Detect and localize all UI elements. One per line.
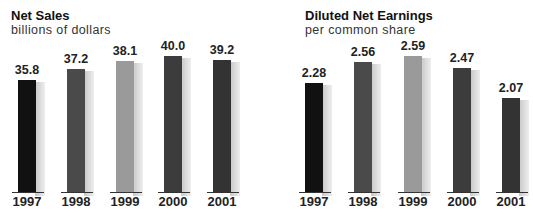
value-label: 2.07 <box>491 81 531 95</box>
chart-title: Diluted Net Earnings <box>305 8 433 23</box>
chart-subtitle: per common share <box>305 23 416 37</box>
baseline <box>299 192 331 193</box>
year-label: 1997 <box>292 194 336 209</box>
year-label: 1999 <box>391 194 435 209</box>
bar-shadow <box>519 100 529 196</box>
value-label: 2.56 <box>343 45 383 59</box>
baseline <box>398 192 430 193</box>
bar-1999 <box>404 56 422 192</box>
baseline <box>496 192 528 193</box>
bar-2000 <box>453 68 471 192</box>
value-label: 2.28 <box>294 66 334 80</box>
value-label: 2.59 <box>393 39 433 53</box>
bar-shadow <box>371 64 381 196</box>
bar-2001 <box>502 98 520 192</box>
year-label: 1998 <box>341 194 385 209</box>
bar-1997 <box>305 83 323 192</box>
year-label: 2001 <box>489 194 533 209</box>
value-label: 2.47 <box>442 51 482 65</box>
baseline <box>348 192 380 193</box>
bar-shadow <box>470 70 480 196</box>
bar-1998 <box>354 62 372 192</box>
bar-shadow <box>421 58 431 196</box>
baseline <box>447 192 479 193</box>
bar-shadow <box>322 85 332 196</box>
year-label: 2000 <box>440 194 484 209</box>
